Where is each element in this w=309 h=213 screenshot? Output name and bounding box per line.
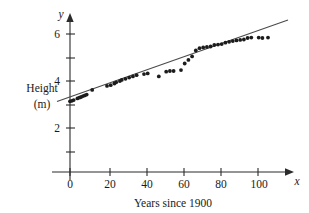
data-point [238, 38, 242, 42]
y-tick-label-2: 2 [54, 122, 60, 134]
x-tick-label-100: 100 [250, 178, 268, 190]
data-point [124, 77, 128, 81]
data-point [216, 43, 220, 47]
data-point [246, 36, 250, 40]
y-axis-title-line1: Height [26, 82, 58, 95]
x-tick-label-20: 20 [104, 178, 116, 190]
data-point [183, 62, 187, 66]
y-axis-title-line2: (m) [34, 98, 51, 111]
data-point [201, 46, 205, 50]
data-point [227, 40, 231, 44]
plot-canvas: y x 6 4 2 0 20 40 60 80 100 Height (m) Y… [0, 0, 309, 213]
data-point [209, 45, 213, 49]
data-point [266, 36, 270, 40]
x-axis-variable-label: x [293, 175, 300, 187]
data-point [127, 76, 131, 80]
data-point [235, 39, 239, 43]
data-point [164, 70, 168, 74]
data-point [72, 98, 76, 102]
data-point [261, 36, 265, 40]
data-point [257, 36, 261, 40]
data-point [179, 68, 183, 72]
data-point [157, 75, 161, 79]
x-tick-label-40: 40 [141, 178, 153, 190]
y-tick-label-6: 6 [54, 28, 60, 40]
data-point [131, 75, 135, 79]
data-point [120, 78, 124, 82]
x-tick-label-80: 80 [215, 178, 227, 190]
data-point [105, 84, 109, 88]
data-point [90, 88, 94, 92]
data-point [231, 39, 235, 43]
x-axis-arrow-icon [285, 168, 294, 176]
data-point-group [68, 36, 270, 104]
x-tick-label-60: 60 [178, 178, 190, 190]
x-axis-caption: Years since 1900 [134, 197, 212, 209]
data-point [142, 72, 146, 76]
data-point [198, 46, 202, 50]
data-point [168, 69, 172, 73]
data-point [205, 45, 209, 49]
data-point [212, 43, 216, 47]
data-point [190, 55, 194, 59]
data-point [114, 80, 118, 84]
data-point [187, 58, 191, 62]
data-point [249, 36, 253, 40]
data-point [135, 73, 139, 77]
data-point [224, 41, 228, 45]
y-axis-arrow-icon [66, 13, 73, 22]
y-axis-variable-label: y [57, 8, 64, 21]
data-point [242, 38, 246, 42]
data-point [172, 69, 176, 73]
data-point [109, 83, 113, 87]
data-point [85, 93, 89, 97]
scatter-plot-figure: y x 6 4 2 0 20 40 60 80 100 Height (m) Y… [0, 0, 309, 213]
data-point [194, 49, 198, 53]
x-tick-label-0: 0 [67, 178, 73, 190]
data-point [220, 42, 224, 46]
data-point [146, 72, 150, 76]
